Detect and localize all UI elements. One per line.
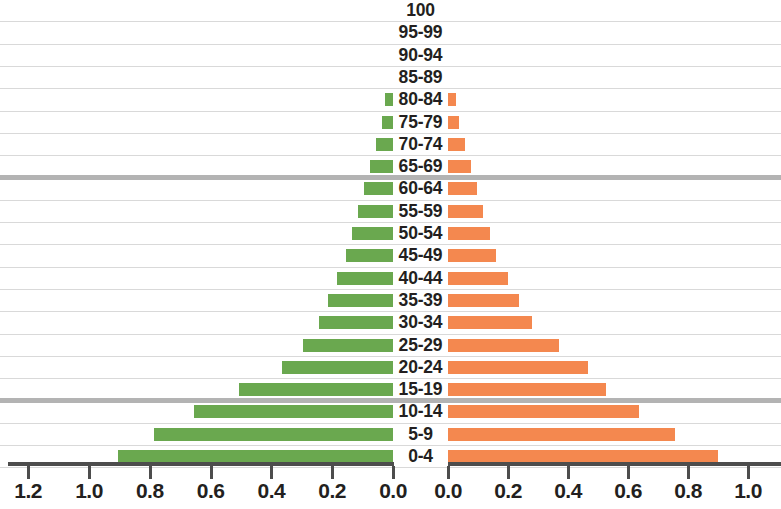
bar-right xyxy=(448,316,532,329)
bar-right xyxy=(448,249,496,262)
axis-tick-label: 0.6 xyxy=(598,479,658,503)
axis-tick xyxy=(27,466,30,479)
bar-right xyxy=(448,205,483,218)
bar-right xyxy=(448,383,606,396)
bar-right xyxy=(448,116,459,129)
bar-left xyxy=(358,205,393,218)
pyramid-row: 85-89 xyxy=(0,67,781,89)
left-axis-line xyxy=(8,462,394,466)
axis-tick xyxy=(567,466,570,479)
pyramid-row: 10-14 xyxy=(0,401,781,423)
axis-tick xyxy=(687,466,690,479)
axis-tick xyxy=(627,466,630,479)
plot-area: 10095-9990-9485-8980-8475-7970-7465-6960… xyxy=(0,0,781,462)
pyramid-row: 40-44 xyxy=(0,268,781,290)
axis-tick xyxy=(210,466,213,479)
axis-tick-label: 0.2 xyxy=(478,479,538,503)
axis-tick-label: 0.2 xyxy=(302,479,362,503)
axis-tick xyxy=(747,466,750,479)
bar-right xyxy=(448,428,675,441)
axis-tick xyxy=(507,466,510,479)
bar-right xyxy=(448,182,477,195)
age-group-label: 15-19 xyxy=(393,378,448,400)
bar-left xyxy=(376,138,393,151)
pyramid-row: 65-69 xyxy=(0,156,781,178)
axis-tick-label: 0.4 xyxy=(538,479,598,503)
pyramid-row: 5-9 xyxy=(0,424,781,446)
bar-left xyxy=(346,249,393,262)
axis-tick xyxy=(331,466,334,479)
axis-tick xyxy=(149,466,152,479)
bar-right xyxy=(448,339,559,352)
pyramid-row: 35-39 xyxy=(0,290,781,312)
age-group-label: 80-84 xyxy=(393,88,448,110)
pyramid-row: 20-24 xyxy=(0,357,781,379)
axis-tick-label: 0.8 xyxy=(120,479,180,503)
age-group-label: 25-29 xyxy=(393,334,448,356)
axis-tick-label: 1.0 xyxy=(59,479,119,503)
bar-right xyxy=(448,93,456,106)
pyramid-row: 60-64 xyxy=(0,178,781,200)
pyramid-row: 75-79 xyxy=(0,112,781,134)
axis-tick xyxy=(392,466,395,479)
bar-left xyxy=(154,428,393,441)
bar-right xyxy=(448,160,471,173)
age-group-label: 45-49 xyxy=(393,244,448,266)
age-group-label: 35-39 xyxy=(393,289,448,311)
age-group-label: 60-64 xyxy=(393,177,448,199)
bar-left xyxy=(370,160,393,173)
age-group-label: 30-34 xyxy=(393,311,448,333)
age-group-label: 55-59 xyxy=(393,200,448,222)
age-group-label: 90-94 xyxy=(393,44,448,66)
age-group-label: 50-54 xyxy=(393,222,448,244)
pyramid-row: 55-59 xyxy=(0,201,781,223)
bar-right xyxy=(448,405,639,418)
bar-left xyxy=(352,227,393,240)
pyramid-row: 50-54 xyxy=(0,223,781,245)
age-group-label: 85-89 xyxy=(393,66,448,88)
pyramid-row: 100 xyxy=(0,0,781,22)
left-x-axis: 1.21.00.80.60.40.20.0 xyxy=(8,462,394,509)
population-pyramid-chart: 10095-9990-9485-8980-8475-7970-7465-6960… xyxy=(0,0,781,509)
bar-left xyxy=(385,93,393,106)
bar-left xyxy=(364,182,393,195)
age-group-label: 20-24 xyxy=(393,356,448,378)
age-group-label: 40-44 xyxy=(393,267,448,289)
pyramid-row: 70-74 xyxy=(0,134,781,156)
axis-tick-label: 0.8 xyxy=(658,479,718,503)
bar-left xyxy=(337,272,393,285)
age-group-label: 5-9 xyxy=(393,423,448,445)
axis-tick xyxy=(270,466,273,479)
axis-tick-label: 1.2 xyxy=(0,479,58,503)
bar-left xyxy=(328,294,393,307)
age-group-label: 10-14 xyxy=(393,400,448,422)
bar-right xyxy=(448,227,490,240)
pyramid-row: 80-84 xyxy=(0,89,781,111)
axis-tick-label: 0.4 xyxy=(241,479,301,503)
bar-left xyxy=(382,116,393,129)
bar-right xyxy=(448,138,465,151)
axis-tick xyxy=(447,466,450,479)
bar-right xyxy=(448,272,508,285)
axis-tick-label: 1.0 xyxy=(718,479,778,503)
age-group-label: 65-69 xyxy=(393,155,448,177)
pyramid-row: 45-49 xyxy=(0,245,781,267)
axis-tick-label: 0.6 xyxy=(181,479,241,503)
bar-left xyxy=(239,383,393,396)
age-group-label: 0-4 xyxy=(393,445,448,467)
right-x-axis: 0.00.20.40.60.81.0 xyxy=(448,462,781,509)
age-group-label: 70-74 xyxy=(393,133,448,155)
pyramid-row: 30-34 xyxy=(0,312,781,334)
pyramid-row: 95-99 xyxy=(0,22,781,44)
pyramid-row: 90-94 xyxy=(0,45,781,67)
bar-left xyxy=(303,339,393,352)
age-group-label: 95-99 xyxy=(393,21,448,43)
pyramid-row: 15-19 xyxy=(0,379,781,401)
axis-tick-label: 0.0 xyxy=(363,479,423,503)
age-group-label: 100 xyxy=(393,0,448,21)
right-axis-line xyxy=(448,462,781,466)
age-group-label: 75-79 xyxy=(393,111,448,133)
axis-tick-label: 0.0 xyxy=(418,479,478,503)
bar-left xyxy=(282,361,393,374)
pyramid-row: 25-29 xyxy=(0,335,781,357)
